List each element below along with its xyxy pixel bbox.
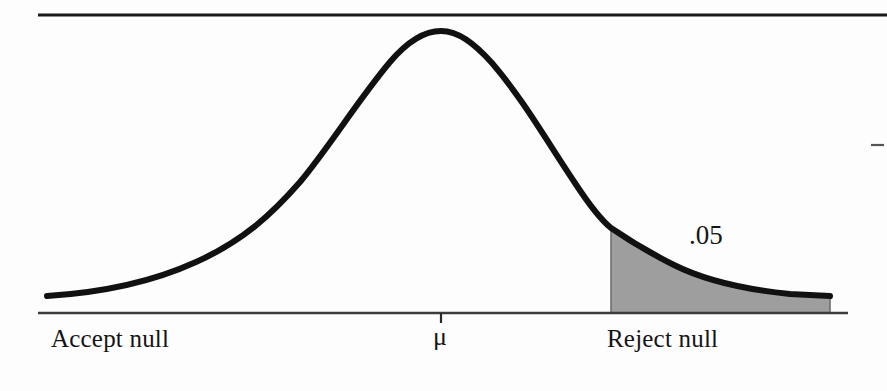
normal-curve-path — [47, 31, 830, 296]
reject-null-label: Reject null — [607, 326, 718, 351]
accept-null-label: Accept null — [51, 326, 169, 351]
alpha-level-label: .05 — [689, 222, 723, 249]
figure-container: .05 Accept null μ Reject null — [0, 0, 887, 391]
mean-symbol-label: μ — [433, 324, 447, 350]
